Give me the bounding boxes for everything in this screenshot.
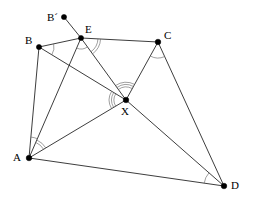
angle-at-A-2: [36, 140, 46, 149]
angle-at-X-top: [116, 82, 135, 89]
vertex-dot-Bprime: [61, 14, 66, 19]
vertex-label-C: C: [164, 30, 171, 41]
angle-at-E-left-arc-1: [77, 47, 88, 49]
vertex-dot-C: [155, 39, 161, 45]
angle-at-X-left-arc-2: [112, 93, 114, 108]
angle-at-B-arc-1: [52, 44, 54, 55]
geometry-figure: B´EBCXAD: [0, 0, 254, 201]
seg-B-X: [39, 47, 126, 100]
seg-C-D: [158, 42, 224, 186]
vertex-label-Bprime: B´: [47, 12, 58, 23]
vertex-label-B: B: [25, 35, 32, 46]
vertex-label-A: A: [13, 152, 21, 163]
angle-at-E-right: [91, 39, 101, 54]
vertex-dot-D: [221, 183, 227, 189]
vertex-dot-B: [36, 44, 41, 49]
geometry-canvas: [0, 0, 254, 201]
seg-A-D: [29, 158, 224, 186]
angle-at-X-top-arc-3: [116, 82, 135, 85]
vertex-label-E: E: [85, 24, 92, 35]
angle-at-X-top-arc-1: [118, 87, 132, 89]
seg-B-A: [29, 47, 39, 158]
angle-at-X-left: [109, 91, 116, 108]
angle-at-D: [204, 173, 209, 183]
angle-arcs-group: [31, 39, 209, 183]
seg-X-D: [126, 100, 224, 186]
vertex-dot-E: [78, 35, 83, 40]
vertex-dot-A: [26, 155, 32, 161]
angle-at-D-arc-1: [204, 173, 209, 183]
angle-at-C: [150, 56, 164, 58]
angle-at-E-right-arc-2: [93, 39, 101, 54]
seg-E-X: [81, 38, 126, 100]
seg-E-C: [81, 38, 158, 42]
angle-at-X-left-arc-1: [114, 94, 116, 106]
vertex-label-X: X: [121, 106, 129, 117]
angle-at-A-arc-1: [31, 137, 37, 139]
angle-at-C-arc-1: [150, 56, 164, 58]
angle-at-E-left: [77, 47, 88, 49]
seg-C-X: [126, 42, 158, 100]
angle-at-B: [52, 44, 54, 55]
seg-Bprime-E: [64, 17, 81, 38]
seg-B-E: [39, 38, 81, 47]
vertex-dot-X: [123, 97, 129, 103]
angle-at-A: [31, 137, 37, 139]
vertex-label-D: D: [231, 180, 239, 191]
